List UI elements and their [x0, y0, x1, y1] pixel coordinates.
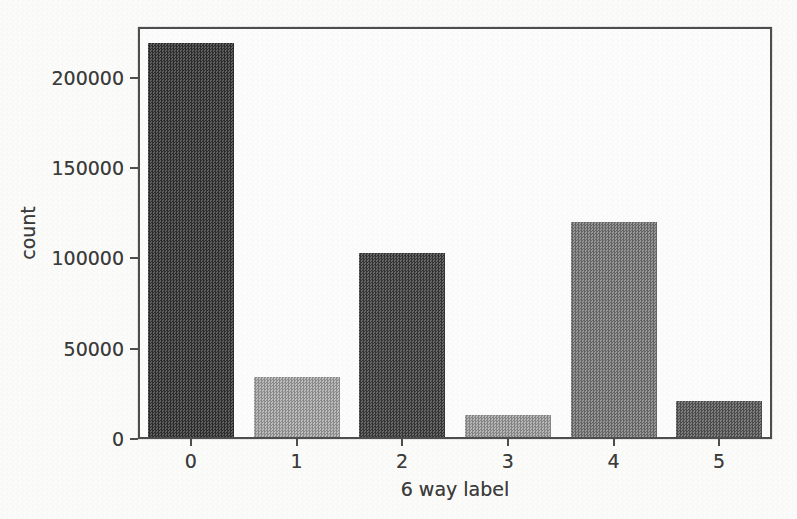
bar [465, 415, 551, 437]
y-tick-label: 0 [0, 428, 124, 450]
y-tick-mark [130, 257, 138, 259]
x-tick-mark [507, 439, 509, 446]
y-tick-mark [130, 167, 138, 169]
bar-chart-figure: count 6 way label 0500001000001500002000… [0, 0, 797, 519]
x-tick-label: 5 [697, 450, 741, 472]
x-tick-mark [296, 439, 298, 446]
bar [359, 253, 445, 437]
x-tick-mark [190, 439, 192, 446]
bar [254, 377, 340, 437]
y-tick-mark [130, 348, 138, 350]
y-tick-label: 100000 [0, 247, 124, 269]
x-tick-mark [613, 439, 615, 446]
y-tick-label: 50000 [0, 338, 124, 360]
y-tick-label: 150000 [0, 157, 124, 179]
x-tick-mark [718, 439, 720, 446]
y-tick-mark [130, 438, 138, 440]
x-tick-label: 2 [380, 450, 424, 472]
plot-area [138, 27, 772, 439]
x-tick-label: 4 [592, 450, 636, 472]
bar [148, 43, 234, 437]
y-tick-mark [130, 77, 138, 79]
bar [676, 401, 762, 437]
x-tick-mark [401, 439, 403, 446]
bar [571, 222, 657, 437]
x-tick-label: 0 [169, 450, 213, 472]
x-tick-label: 3 [486, 450, 530, 472]
y-tick-label: 200000 [0, 67, 124, 89]
x-tick-label: 1 [275, 450, 319, 472]
x-axis-label: 6 way label [138, 478, 772, 500]
